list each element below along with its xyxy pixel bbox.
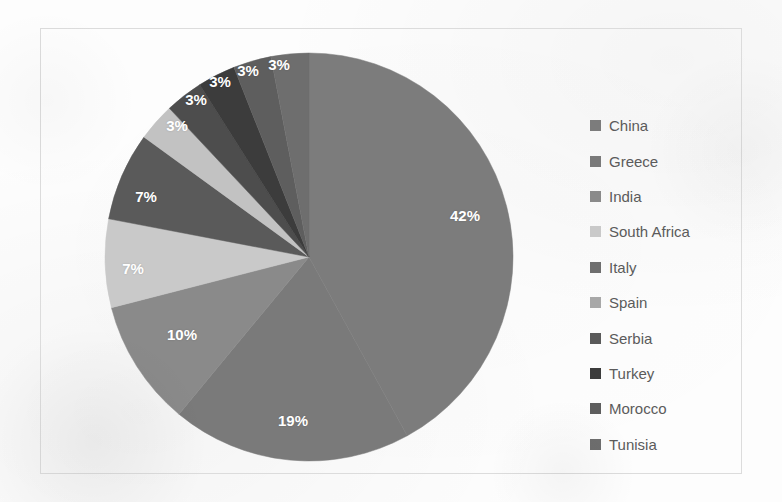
legend-swatch-icon	[590, 333, 601, 344]
legend-swatch-icon	[590, 439, 601, 450]
pie-chart-svg	[104, 52, 514, 462]
legend-item-label: India	[609, 189, 642, 204]
legend-swatch-icon	[590, 297, 601, 308]
legend-item[interactable]: Italy	[590, 250, 740, 285]
legend-item-label: South Africa	[609, 224, 690, 239]
pie-slice-percent-label: 42%	[450, 207, 480, 224]
legend-item[interactable]: Greece	[590, 143, 740, 178]
legend-item-label: Greece	[609, 154, 658, 169]
legend-item-label: Serbia	[609, 331, 652, 346]
legend-swatch-icon	[590, 120, 601, 131]
legend-item[interactable]: Turkey	[590, 356, 740, 391]
legend-item[interactable]: China	[590, 108, 740, 143]
legend-item-label: Turkey	[609, 366, 654, 381]
pie-slice-percent-label: 3%	[209, 73, 231, 90]
legend-item[interactable]: Serbia	[590, 320, 740, 355]
pie-slice-percent-label: 19%	[278, 412, 308, 429]
legend-swatch-icon	[590, 226, 601, 237]
pie-slice-percent-label: 3%	[166, 117, 188, 134]
pie-slice-group	[105, 53, 513, 461]
pie-slice-percent-label: 3%	[185, 91, 207, 108]
pie-slice-percent-label: 7%	[135, 188, 157, 205]
legend-item[interactable]: Morocco	[590, 391, 740, 426]
legend-swatch-icon	[590, 191, 601, 202]
legend-item-label: Morocco	[609, 401, 667, 416]
legend-swatch-icon	[590, 262, 601, 273]
legend-item[interactable]: India	[590, 179, 740, 214]
legend-item-label: Italy	[609, 260, 637, 275]
pie-slice-percent-label: 3%	[237, 62, 259, 79]
legend-item[interactable]: South Africa	[590, 214, 740, 249]
pie-slice-percent-label: 10%	[167, 326, 197, 343]
legend-item-label: Spain	[609, 295, 647, 310]
legend-item[interactable]: Spain	[590, 285, 740, 320]
legend-item-label: Tunisia	[609, 437, 657, 452]
legend-swatch-icon	[590, 156, 601, 167]
legend-swatch-icon	[590, 403, 601, 414]
chart-legend: ChinaGreeceIndiaSouth AfricaItalySpainSe…	[590, 108, 740, 462]
pie-slice-percent-label: 7%	[122, 260, 144, 277]
legend-swatch-icon	[590, 368, 601, 379]
legend-item-label: China	[609, 118, 648, 133]
pie-slice-percent-label: 3%	[268, 56, 290, 73]
legend-item[interactable]: Tunisia	[590, 427, 740, 462]
